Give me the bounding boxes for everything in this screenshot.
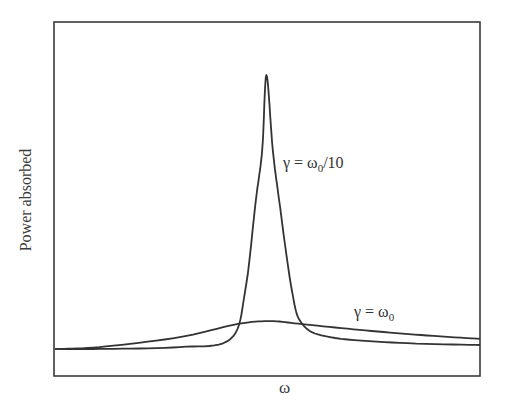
annotation-broad-sub: 0	[389, 311, 395, 323]
y-axis-label: Power absorbed	[17, 149, 35, 252]
annotation-broad: γ = ω0	[354, 303, 394, 323]
annotation-narrow-tail: /10	[323, 154, 343, 171]
x-axis-label: ω	[279, 378, 290, 398]
curve-broad-resonance	[55, 321, 480, 349]
annotation-narrow: γ = ω0/10	[283, 154, 344, 174]
annotation-narrow-text: γ = ω	[283, 154, 318, 171]
annotation-broad-text: γ = ω	[354, 303, 389, 320]
chart-canvas	[0, 0, 506, 417]
curve-narrow-resonance	[55, 75, 480, 349]
